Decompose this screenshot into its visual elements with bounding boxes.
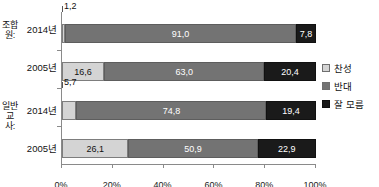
callout-tick	[62, 82, 63, 88]
group-label-teacher: 일반 교사:	[2, 101, 18, 131]
bar-segment-unknown: 7,8	[296, 24, 316, 43]
x-axis-tick-label: 0%	[41, 180, 81, 187]
y-axis-tick	[57, 126, 61, 127]
legend-label: 잘 모름	[334, 99, 364, 110]
legend-item[interactable]: 반대	[322, 78, 378, 94]
ytick-label-teacher-2005: 2005년	[19, 143, 57, 154]
legend-label: 찬성	[334, 63, 352, 74]
legend-swatch-unknown	[322, 100, 330, 108]
x-axis-tick-label: 20%	[92, 180, 132, 187]
ytick-label-union-2005: 2005년	[19, 62, 57, 73]
bar-segment-unknown: 19,4	[266, 101, 315, 120]
x-axis-tick-label: 60%	[193, 180, 233, 187]
bar-row: 16,663,020,4	[62, 62, 316, 81]
ytick-label-union-2014: 2014년	[19, 24, 57, 35]
bar-segment-oppose: 74,8	[76, 101, 266, 120]
bar-segment-unknown: 20,4	[264, 62, 316, 81]
x-axis-tick	[213, 164, 214, 168]
x-axis-tick-label: 40%	[143, 180, 183, 187]
y-axis-tick	[57, 50, 61, 51]
bar-row: 1,291,07,8	[62, 24, 316, 43]
x-axis-tick-label: 80%	[244, 180, 284, 187]
x-axis-tick	[163, 164, 164, 168]
legend-item[interactable]: 잘 모름	[322, 96, 378, 112]
callout-teacher-2014: 5,7	[64, 77, 77, 87]
callout-union-2014: 1,2	[64, 1, 77, 11]
callout-tick	[62, 6, 63, 12]
bar-segment-oppose: 91,0	[65, 24, 296, 43]
bar-segment-value: 50,9	[184, 144, 202, 154]
group-label-union: 조합원:	[2, 20, 18, 40]
x-axis-tick	[315, 164, 316, 168]
legend-swatch-agree	[322, 64, 330, 72]
legend-swatch-oppose	[322, 82, 330, 90]
x-axis-tick-label: 100%	[295, 180, 335, 187]
bar-segment-value: 20,4	[281, 67, 299, 77]
bar-row: 26,150,922,9	[62, 139, 316, 158]
ytick-label-teacher-2014: 2014년	[19, 105, 57, 116]
bar-segment-value: 74,8	[163, 106, 181, 116]
x-axis-tick	[264, 164, 265, 168]
bar-segment-oppose: 63,0	[104, 62, 264, 81]
stacked-bar-chart: 조합원: 일반 교사: 2014년 2005년 2014년 2005년 1,29…	[0, 0, 379, 187]
y-axis-tick	[57, 88, 61, 89]
bar-segment-value: 19,4	[282, 106, 300, 116]
bar-segment-unknown: 22,9	[258, 139, 316, 158]
legend-item[interactable]: 찬성	[322, 60, 378, 76]
bar-segment-agree: 5,7	[62, 101, 76, 120]
bar-segment-agree: 26,1	[62, 139, 128, 158]
legend-label: 반대	[334, 81, 352, 92]
x-axis-line	[61, 164, 315, 165]
plot-area: 1,291,07,816,663,020,45,774,819,426,150,…	[61, 12, 315, 164]
bar-row: 5,774,819,4	[62, 101, 316, 120]
bar-segment-value: 7,8	[300, 29, 313, 39]
x-axis-tick	[61, 164, 62, 168]
chart-legend: 찬성반대잘 모름	[322, 60, 378, 114]
bar-segment-value: 26,1	[86, 144, 104, 154]
bar-segment-value: 22,9	[278, 144, 296, 154]
bar-segment-value: 91,0	[172, 29, 190, 39]
bar-segment-oppose: 50,9	[128, 139, 257, 158]
bar-segment-value: 16,6	[74, 67, 92, 77]
x-axis-tick	[112, 164, 113, 168]
bar-segment-value: 63,0	[175, 67, 193, 77]
